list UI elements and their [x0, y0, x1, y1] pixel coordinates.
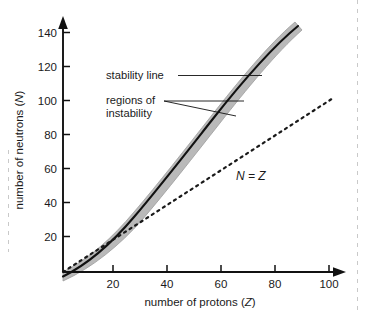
- regions-of-instability-label-line1: regions of: [106, 94, 156, 106]
- nuclear-stability-chart: 140 120 100 80 60 40 20 20 40 60 80 100 …: [0, 0, 367, 313]
- figure-container: 140 120 100 80 60 40 20 20 40 60 80 100 …: [0, 0, 367, 313]
- x-tick-label-20: 20: [107, 278, 120, 290]
- y-tick-label-40: 40: [44, 197, 57, 209]
- x-tick-label-40: 40: [161, 278, 174, 290]
- regions-of-instability-label-line2: instability: [106, 107, 152, 119]
- y-tick-label-20: 20: [44, 231, 57, 243]
- y-axis-title-suffix: ): [13, 90, 25, 94]
- y-tick-label-140: 140: [38, 27, 57, 39]
- x-tick-label-60: 60: [215, 278, 228, 290]
- y-tick-label-100: 100: [38, 95, 57, 107]
- x-axis-title-suffix: ): [252, 296, 256, 308]
- n-equals-z-label: N = Z: [236, 169, 266, 183]
- y-tick-label-120: 120: [38, 61, 57, 73]
- y-tick-label-60: 60: [44, 163, 57, 175]
- y-tick-label-80: 80: [44, 129, 57, 141]
- x-tick-label-100: 100: [319, 278, 338, 290]
- x-axis-title: number of protons (Z): [144, 296, 255, 308]
- y-axis-title: number of neutrons (N): [13, 90, 25, 209]
- stability-line-label: stability line: [106, 69, 164, 81]
- x-axis-title-prefix: number of protons (: [144, 296, 245, 308]
- x-tick-label-80: 80: [269, 278, 282, 290]
- y-axis-title-prefix: number of neutrons (: [13, 103, 25, 210]
